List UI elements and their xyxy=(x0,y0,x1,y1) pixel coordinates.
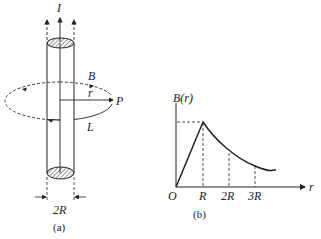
loop-arrow-icon xyxy=(22,88,27,92)
tick-r: R xyxy=(198,189,207,203)
figure-a: I B r P L xyxy=(5,1,124,234)
diameter-dimension xyxy=(35,177,86,200)
origin-label: O xyxy=(168,189,177,203)
tick-3r: 3R xyxy=(247,189,262,203)
tick-2r: 2R xyxy=(221,189,235,203)
amperian-loop xyxy=(5,82,112,123)
loop-label: L xyxy=(86,120,94,134)
current-label: I xyxy=(56,1,62,15)
field-label: B xyxy=(88,69,96,83)
cylinder xyxy=(47,38,74,179)
caption-b: (b) xyxy=(193,208,206,221)
y-axis-label: B(r) xyxy=(173,91,193,105)
x-axis-label: r xyxy=(309,180,314,194)
caption-a: (a) xyxy=(53,221,66,234)
figure-b: B(r) r O R 2R 3R (b) xyxy=(168,91,314,221)
diameter-label: 2R xyxy=(53,203,67,217)
top-cross-section xyxy=(47,38,74,48)
radius-label: r xyxy=(88,86,93,100)
point-label: P xyxy=(115,94,124,108)
field-curve xyxy=(176,122,276,187)
diagram-canvas: I B r P L xyxy=(0,0,321,239)
bottom-cross-section xyxy=(47,167,74,179)
